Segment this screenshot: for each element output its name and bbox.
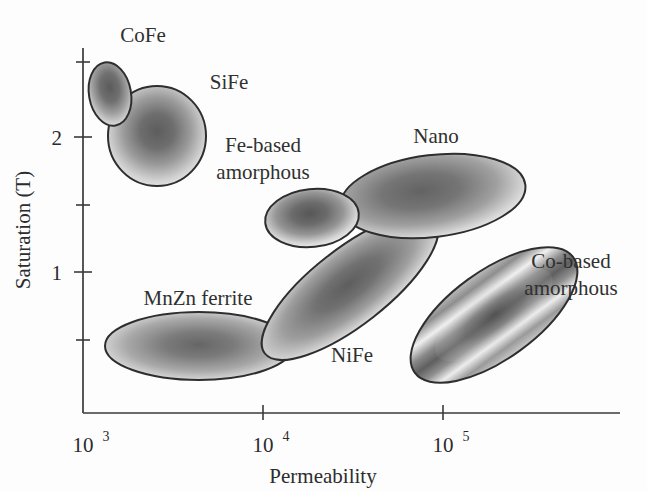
x-tick-1e5-exp: 5 (463, 429, 470, 444)
chart-container: 2 1 10 3 10 4 10 5 Permeability Saturati… (0, 0, 647, 492)
label-sife: SiFe (210, 70, 249, 94)
label-mnzn-ferrite: MnZn ferrite (143, 286, 252, 310)
x-tick-1e3-exp: 3 (103, 429, 110, 444)
x-tick-1e4-base: 10 (253, 433, 274, 457)
x-tick-label-1e3: 10 3 (73, 429, 110, 457)
x-tick-1e5-base: 10 (433, 433, 454, 457)
label-fe-based-amorphous-line1: Fe-based (225, 133, 301, 157)
y-tick-label-2: 2 (52, 126, 63, 150)
materials-chart: 2 1 10 3 10 4 10 5 Permeability Saturati… (0, 0, 647, 492)
x-axis-title: Permeability (269, 464, 377, 488)
x-tick-1e4-exp: 4 (283, 429, 290, 444)
label-fe-based-amorphous-line2: amorphous (216, 160, 309, 184)
x-tick-1e3-base: 10 (73, 433, 94, 457)
x-tick-label-1e4: 10 4 (253, 429, 290, 457)
label-co-based-amorphous-line2: amorphous (524, 276, 617, 300)
label-nife: NiFe (331, 343, 373, 367)
label-nano: Nano (413, 124, 459, 148)
label-cofe: CoFe (120, 23, 166, 47)
label-co-based-amorphous-line1: Co-based (531, 249, 611, 273)
y-tick-label-1: 1 (52, 261, 63, 285)
x-tick-label-1e5: 10 5 (433, 429, 470, 457)
y-axis-title: Saturation (T) (11, 171, 35, 289)
